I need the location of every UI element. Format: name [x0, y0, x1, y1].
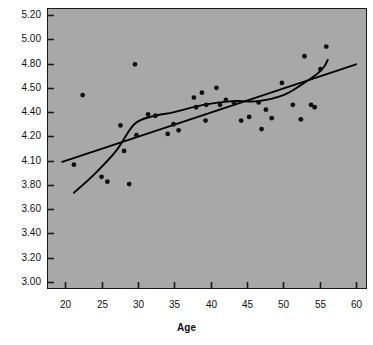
x-tick-label: 40: [197, 300, 227, 310]
x-tick-label: 55: [306, 300, 336, 310]
x-tick-label: 20: [51, 300, 81, 310]
x-tick-label: 45: [233, 300, 263, 310]
x-axis-tick-labels: 202530354045505560: [0, 0, 373, 345]
x-axis-title: Age: [0, 322, 373, 333]
x-tick-label: 60: [342, 300, 372, 310]
x-tick-label: 30: [124, 300, 154, 310]
x-tick-label: 50: [269, 300, 299, 310]
x-tick-label: 35: [160, 300, 190, 310]
scatter-plot-figure: 5.205.004.804.504.404.204.103.803.603.40…: [0, 0, 373, 345]
x-tick-label: 25: [88, 300, 118, 310]
